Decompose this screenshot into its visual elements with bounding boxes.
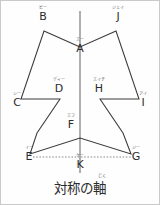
figure-frame: エー A ビー B シー C ディー D イー E エフ F ジー G エイチ … [0, 0, 160, 205]
symmetry-diagram-canvas [1, 1, 159, 204]
caption-base: 対称の軸 [54, 180, 106, 196]
figure-caption: じく 対称の軸 [1, 177, 159, 197]
caption-ruby: じく [98, 172, 106, 178]
caption-text-wrapper: じく 対称の軸 [54, 177, 106, 197]
